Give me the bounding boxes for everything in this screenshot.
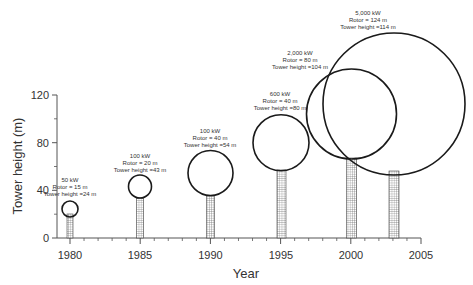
x-tick-label: 2005 [409, 249, 433, 261]
x-tick-label: 2000 [339, 249, 363, 261]
x-tick-label: 1990 [198, 249, 222, 261]
rotor-2000 [307, 69, 397, 159]
tower-1995 [277, 170, 286, 238]
svg-text:100 kW: 100 kW [130, 153, 151, 159]
x-axis-title: Year [233, 266, 260, 281]
annotation-2000: 2,000 kW Rotor = 80 m Tower height =104 … [272, 50, 328, 70]
svg-text:50 kW: 50 kW [61, 177, 78, 183]
annotation-2003: 5,000 kW Rotor = 124 m Tower height =114… [340, 10, 395, 30]
rotor-1995 [253, 115, 309, 171]
rotor-1985 [129, 175, 152, 198]
y-axis: 0 40 80 120 Tower height (m) [10, 89, 57, 244]
svg-text:Rotor = 40 m: Rotor = 40 m [263, 98, 298, 104]
svg-text:Tower height =114 m: Tower height =114 m [340, 24, 395, 30]
tower-2000 [347, 158, 357, 238]
tower-1985 [137, 198, 144, 238]
rotors [62, 33, 465, 217]
svg-text:2,000 kW: 2,000 kW [287, 50, 313, 56]
svg-text:100 kW: 100 kW [200, 128, 221, 134]
svg-text:Tower height =54 m: Tower height =54 m [184, 142, 237, 148]
y-tick-label: 120 [31, 89, 49, 101]
tower-2003 [389, 171, 399, 238]
x-tick-label: 1995 [269, 249, 293, 261]
wind-turbine-size-chart: 0 40 80 120 Tower height (m) 1980 1985 1… [0, 0, 473, 285]
svg-text:Rotor = 40 m: Rotor = 40 m [193, 135, 228, 141]
y-tick-label: 80 [37, 137, 49, 149]
annotation-1995: 600 kW Rotor = 40 m Tower height =80 m [254, 91, 307, 111]
rotor-1990 [188, 151, 233, 196]
annotation-1985: 100 kW Rotor = 20 m Tower height =43 m [114, 153, 167, 173]
svg-text:Tower height =43 m: Tower height =43 m [114, 167, 167, 173]
svg-text:600 kW: 600 kW [270, 91, 291, 97]
tower-1990 [207, 196, 215, 238]
x-axis: 1980 1985 1990 1995 2000 2005 Year [57, 238, 433, 281]
svg-text:Tower height =104 m: Tower height =104 m [272, 64, 328, 70]
y-tick-label: 0 [43, 232, 49, 244]
svg-text:Rotor = 80 m: Rotor = 80 m [283, 57, 318, 63]
svg-text:Rotor = 15 m: Rotor = 15 m [53, 184, 88, 190]
rotor-2003 [323, 33, 465, 175]
annotations: 50 kW Rotor = 15 m Tower height =24 m 10… [44, 10, 396, 197]
x-tick-label: 1980 [58, 249, 82, 261]
svg-text:5,000 kW: 5,000 kW [355, 10, 381, 16]
svg-text:Tower height =24 m: Tower height =24 m [44, 191, 97, 197]
y-axis-title: Tower height (m) [10, 118, 25, 215]
annotation-1990: 100 kW Rotor = 40 m Tower height =54 m [184, 128, 237, 148]
svg-text:Rotor = 20 m: Rotor = 20 m [123, 160, 158, 166]
x-tick-label: 1985 [128, 249, 152, 261]
annotation-1980: 50 kW Rotor = 15 m Tower height =24 m [44, 177, 97, 197]
svg-text:Rotor = 124 m: Rotor = 124 m [349, 17, 387, 23]
svg-text:Tower height =80 m: Tower height =80 m [254, 105, 307, 111]
